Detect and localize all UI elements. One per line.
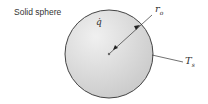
heat-generation-label: q̇ [96, 17, 102, 27]
surface-leader [152, 55, 183, 62]
diagram: Solid sphere q̇ ro Ts [0, 0, 208, 104]
radius-label: ro [155, 3, 163, 16]
surface-temp-label: Ts [185, 55, 195, 68]
sphere-figure [0, 0, 208, 104]
